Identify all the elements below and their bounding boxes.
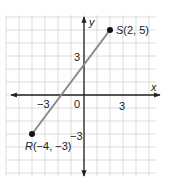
x-tick-3: 3 (119, 100, 125, 112)
point-r-coords: (−4, −3) (33, 140, 72, 152)
origin-label: 0 (74, 98, 80, 110)
point-s (107, 27, 113, 33)
x-tick-neg3: −3 (37, 98, 50, 110)
y-tick-3: 3 (74, 51, 80, 63)
point-r (29, 131, 35, 137)
coordinate-plane-figure: x y −3 0 3 3 −3 S(2, 5) R(−4, −3) (0, 0, 171, 187)
point-r-label: R(−4, −3) (25, 140, 71, 152)
point-s-coords: (2, 5) (123, 24, 149, 36)
point-s-label: S(2, 5) (116, 24, 149, 36)
y-axis-label: y (88, 16, 96, 28)
y-tick-neg3: −3 (70, 130, 83, 142)
point-r-name: R (25, 140, 33, 152)
coordinate-plane: x y −3 0 3 3 −3 S(2, 5) R(−4, −3) (0, 0, 171, 187)
x-axis-label: x (150, 81, 157, 93)
